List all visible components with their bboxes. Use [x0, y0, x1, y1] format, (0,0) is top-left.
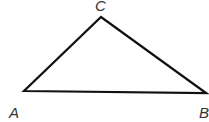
vertex-label-a: A [8, 104, 19, 121]
triangle-abc [24, 17, 206, 93]
triangle-diagram: C A B [0, 0, 209, 122]
vertex-label-b: B [199, 104, 209, 121]
vertex-label-c: C [95, 0, 106, 14]
